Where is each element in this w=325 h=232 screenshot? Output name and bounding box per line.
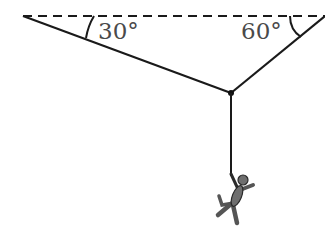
angle-arc-30 [86,16,94,38]
angle-arc-60 [290,16,301,37]
angle-label-60: 60° [241,20,282,43]
angle-label-30: 30° [98,20,139,43]
hanging-person-figure [218,174,253,223]
